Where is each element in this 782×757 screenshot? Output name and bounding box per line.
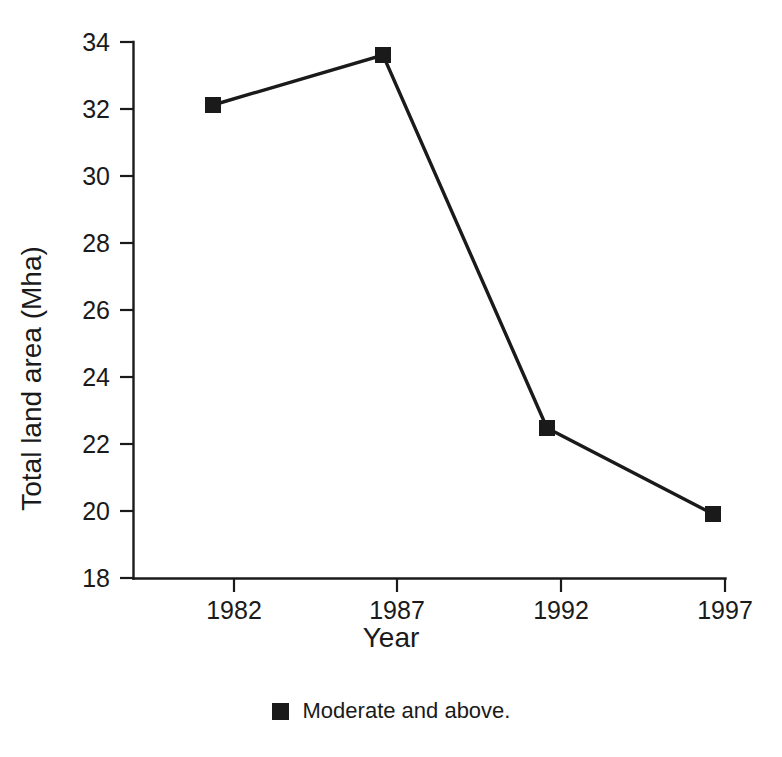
line-chart: 34 32 30 28 26 24 22 20 18 1982 1987 199… <box>0 0 782 757</box>
legend-item-label: Moderate and above. <box>303 700 511 722</box>
x-tick-label-1997: 1997 <box>697 598 753 623</box>
x-tick-label-1982: 1982 <box>206 598 262 623</box>
series-markers <box>205 47 721 522</box>
data-point-1997 <box>705 506 721 522</box>
data-point-1987 <box>375 47 391 63</box>
data-point-1992 <box>539 420 555 436</box>
x-axis-ticks <box>234 579 725 593</box>
series-line-moderate-and-above <box>213 55 713 514</box>
data-point-1982 <box>205 97 221 113</box>
x-axis-title: Year <box>0 624 782 652</box>
y-axis-ticks <box>120 42 134 578</box>
chart-screenshot: 34 32 30 28 26 24 22 20 18 1982 1987 199… <box>0 0 782 757</box>
legend-square-marker-icon <box>272 703 289 720</box>
chart-legend: Moderate and above. <box>0 700 782 722</box>
x-tick-label-1992: 1992 <box>533 598 589 623</box>
x-tick-label-1987: 1987 <box>369 598 425 623</box>
